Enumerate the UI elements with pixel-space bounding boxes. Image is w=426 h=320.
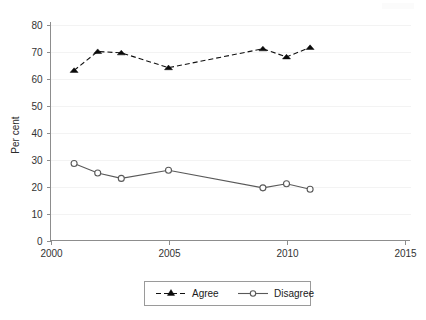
x-tick-label: 2010 [276,248,299,259]
legend: Agree Disagree [145,282,315,306]
chart-container: 01020304050607080 2000200520102015 Per c… [0,0,426,320]
y-tick-label: 10 [31,209,43,220]
y-tick-label: 60 [31,74,43,85]
y-tick-label: 0 [37,236,43,247]
legend-label-disagree: Disagree [274,288,314,299]
circle-marker-icon [166,167,172,173]
line-chart: 01020304050607080 2000200520102015 Per c… [0,0,426,320]
legend-label-agree: Agree [192,288,219,299]
y-tick-label: 70 [31,47,43,58]
top-right-artifact [382,3,414,9]
circle-marker-icon [260,185,266,191]
x-tick-label: 2005 [158,248,181,259]
circle-marker-icon [250,291,255,296]
y-tick-label: 40 [31,128,43,139]
circle-marker-icon [71,161,77,167]
x-tick-label: 2000 [40,248,63,259]
y-tick-label: 80 [31,20,43,31]
x-tick-label: 2015 [394,248,417,259]
y-tick-label: 20 [31,182,43,193]
y-tick-label: 30 [31,155,43,166]
circle-marker-icon [284,181,290,187]
y-tick-label: 50 [31,101,43,112]
circle-marker-icon [95,170,101,176]
circle-marker-icon [118,175,124,181]
circle-marker-icon [307,186,313,192]
y-axis-title: Per cent [10,116,21,153]
